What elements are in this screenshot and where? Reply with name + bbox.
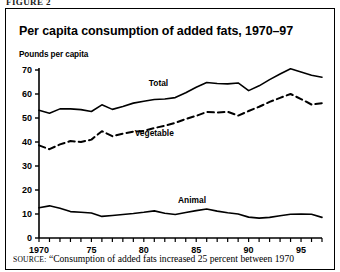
y-tick-label: 40 [22,137,32,147]
figure-page: FIGURE 2 Per capita consumption of added… [0,0,340,272]
series-line-animal [39,206,322,218]
series-label-animal: Animal [178,195,206,205]
y-tick-label: 30 [22,161,32,171]
y-tick-label: 0 [27,233,32,243]
y-tick-label: 60 [22,89,32,99]
plot-area: 01020304050607019707580859095TotalVegeta… [0,0,340,272]
y-tick-label: 70 [22,65,32,75]
y-tick-label: 50 [22,113,32,123]
source-note: SOURCE: “Consumption of added fats incre… [13,253,331,266]
source-body: “Consumption of added fats increased 25 … [49,253,294,264]
series-line-vegetable [39,94,322,149]
source-label: SOURCE: [13,255,46,264]
line-chart: 01020304050607019707580859095TotalVegeta… [0,0,340,272]
series-line-total [39,69,322,113]
y-tick-label: 10 [22,209,32,219]
series-label-vegetable: Vegetable [135,128,174,138]
y-tick-label: 20 [22,185,32,195]
series-label-total: Total [149,78,168,88]
